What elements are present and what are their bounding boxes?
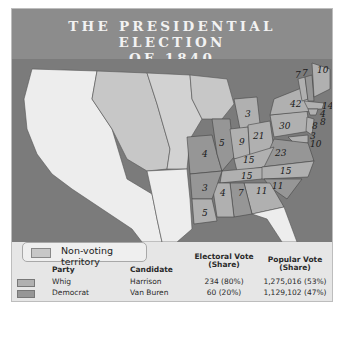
title-banner: THE PRESIDENTIAL ELECTION OF 1840 bbox=[12, 9, 332, 59]
svg-text:5: 5 bbox=[202, 208, 208, 218]
election-map: 10 7 7 14 4 8 42 8 3 10 30 3 21 9 5 4 15… bbox=[12, 59, 332, 242]
row-candidate: Harrison bbox=[130, 277, 162, 286]
svg-text:3: 3 bbox=[245, 109, 251, 119]
row-candidate: Van Buren bbox=[130, 288, 168, 297]
row-popular: 1,275,016 (53%) bbox=[260, 277, 330, 286]
svg-text:5: 5 bbox=[219, 138, 225, 148]
header-popular: Popular Vote (Share) bbox=[260, 256, 330, 272]
democrat-swatch bbox=[17, 290, 35, 298]
title-line-1: THE PRESIDENTIAL ELECTION bbox=[12, 18, 332, 50]
svg-text:15: 15 bbox=[241, 171, 253, 181]
svg-text:10: 10 bbox=[310, 139, 322, 149]
row-electoral: 234 (80%) bbox=[188, 277, 260, 286]
svg-text:15: 15 bbox=[280, 166, 292, 176]
svg-text:8: 8 bbox=[320, 117, 326, 127]
map-figure: THE PRESIDENTIAL ELECTION OF 1840 bbox=[11, 8, 333, 302]
svg-text:42: 42 bbox=[289, 99, 302, 109]
svg-text:21: 21 bbox=[252, 131, 264, 141]
svg-text:11: 11 bbox=[272, 181, 283, 191]
whig-swatch bbox=[17, 279, 35, 287]
svg-text:15: 15 bbox=[243, 155, 255, 165]
svg-text:4: 4 bbox=[201, 149, 208, 159]
svg-text:11: 11 bbox=[256, 186, 267, 196]
svg-text:23: 23 bbox=[274, 148, 287, 158]
header-party: Party bbox=[52, 266, 75, 274]
svg-text:8: 8 bbox=[312, 121, 318, 131]
state-florida bbox=[252, 207, 297, 242]
row-party: Democrat bbox=[52, 288, 89, 297]
svg-text:4: 4 bbox=[219, 188, 226, 198]
svg-text:10: 10 bbox=[317, 65, 329, 75]
header-electoral-line2: (Share) bbox=[188, 261, 260, 269]
header-popular-line2: (Share) bbox=[260, 264, 330, 272]
svg-text:30: 30 bbox=[279, 121, 291, 131]
svg-text:9: 9 bbox=[239, 137, 245, 147]
map-svg: 10 7 7 14 4 8 42 8 3 10 30 3 21 9 5 4 15… bbox=[12, 59, 332, 242]
row-party: Whig bbox=[52, 277, 71, 286]
svg-text:3: 3 bbox=[202, 183, 208, 193]
svg-text:7: 7 bbox=[238, 188, 244, 198]
results-legend: Party Candidate Electoral Vote (Share) P… bbox=[12, 242, 332, 302]
svg-text:7: 7 bbox=[295, 70, 301, 80]
row-electoral: 60 (20%) bbox=[188, 288, 260, 297]
header-candidate: Candidate bbox=[130, 266, 173, 274]
svg-text:7: 7 bbox=[302, 68, 308, 78]
state-connecticut bbox=[308, 109, 318, 115]
header-electoral: Electoral Vote (Share) bbox=[188, 253, 260, 269]
row-popular: 1,129,102 (47%) bbox=[260, 288, 330, 297]
